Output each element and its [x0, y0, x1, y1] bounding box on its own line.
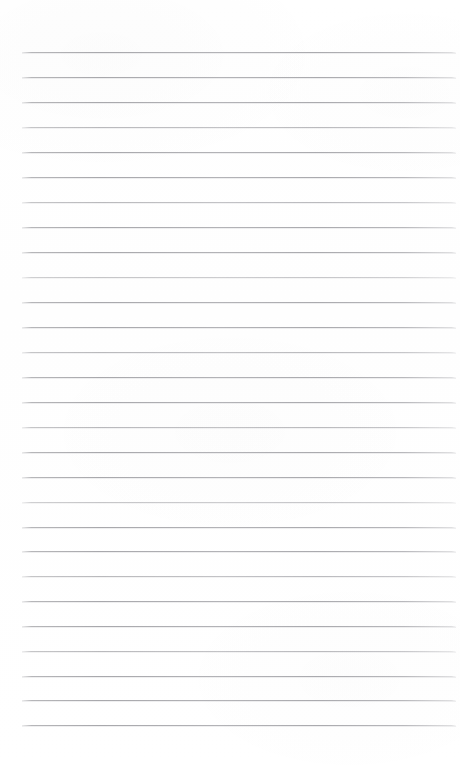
ruled-line	[22, 502, 456, 503]
ruled-line	[22, 302, 456, 303]
paper-texture	[0, 0, 460, 771]
ruled-line	[22, 626, 456, 627]
ruled-line	[22, 102, 456, 103]
ruled-line	[22, 402, 456, 403]
ruled-line	[22, 452, 456, 453]
ruled-line	[22, 551, 456, 552]
ruled-line	[22, 676, 456, 677]
ruled-line	[22, 725, 456, 726]
ruled-lines-layer	[0, 0, 460, 771]
ruled-line	[22, 427, 456, 428]
ruled-line	[22, 202, 456, 203]
ruled-line	[22, 377, 456, 378]
ruled-line	[22, 252, 456, 253]
ruled-line	[22, 576, 456, 577]
ruled-line	[22, 477, 456, 478]
ruled-line	[22, 352, 456, 353]
scanned-page	[0, 0, 460, 771]
ruled-line	[22, 77, 456, 78]
ruled-line	[22, 601, 456, 602]
ruled-line	[22, 52, 456, 53]
ruled-line	[22, 277, 456, 278]
ruled-line	[22, 227, 456, 228]
ruled-line	[22, 527, 456, 528]
ruled-line	[22, 177, 456, 178]
ruled-line	[22, 127, 456, 128]
ruled-line	[22, 651, 456, 652]
ruled-line	[22, 700, 456, 701]
ruled-line	[22, 327, 456, 328]
ruled-line	[22, 152, 456, 153]
